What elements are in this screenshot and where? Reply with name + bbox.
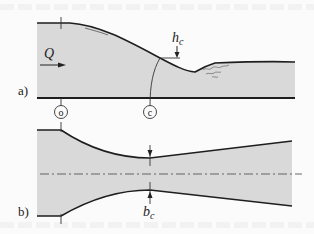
panel-b: bc b) bbox=[18, 122, 302, 224]
flow-rate-label: Q bbox=[44, 46, 54, 61]
channel-flow-diagram: o c hc Q a) bc bbox=[0, 0, 314, 234]
hc-arrow-head bbox=[175, 52, 180, 58]
bc-arrow-bottom bbox=[148, 192, 153, 199]
panel-b-label: b) bbox=[18, 204, 29, 219]
section-o-label: o bbox=[59, 107, 64, 118]
hc-label: hc bbox=[172, 30, 184, 47]
channel-plan-fill bbox=[37, 130, 292, 216]
panel-a: o c hc Q a) bbox=[18, 17, 295, 119]
bc-label: bc bbox=[143, 204, 155, 221]
section-c-label: c bbox=[148, 107, 153, 118]
panel-a-label: a) bbox=[18, 83, 28, 98]
bc-arrow-top bbox=[148, 150, 153, 157]
